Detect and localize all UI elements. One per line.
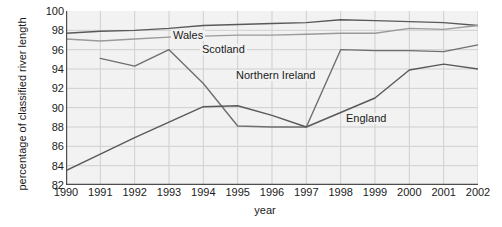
x-tick-1997: 1997	[294, 186, 318, 198]
y-tick-96: 96	[22, 45, 64, 56]
series-canvas	[66, 11, 478, 185]
x-tick-1994: 1994	[191, 186, 215, 198]
x-tick-1993: 1993	[157, 186, 181, 198]
y-tick-86: 86	[22, 141, 64, 152]
x-tick-2002: 2002	[466, 186, 490, 198]
x-tick-1995: 1995	[225, 186, 249, 198]
plot-area	[66, 11, 478, 185]
x-tick-2001: 2001	[431, 186, 455, 198]
y-tick-98: 98	[22, 25, 64, 36]
x-tick-1999: 1999	[363, 186, 387, 198]
x-tick-1998: 1998	[328, 186, 352, 198]
y-tick-92: 92	[22, 83, 64, 94]
x-tick-1991: 1991	[88, 186, 112, 198]
series-label-northern-ireland: Northern Ireland	[234, 70, 318, 81]
y-tick-88: 88	[22, 122, 64, 133]
x-axis-title: year	[0, 204, 502, 216]
x-tick-2000: 2000	[397, 186, 421, 198]
y-tick-100: 100	[22, 6, 64, 17]
x-axis-title-text: year	[254, 204, 275, 216]
y-tick-94: 94	[22, 64, 64, 75]
series-label-england: England	[344, 113, 388, 124]
x-tick-1996: 1996	[260, 186, 284, 198]
x-tick-1992: 1992	[122, 186, 146, 198]
x-axis-tick-labels: 1990199119921993199419951996199719981999…	[0, 186, 502, 202]
x-tick-1990: 1990	[54, 186, 78, 198]
series-label-wales: Wales	[171, 30, 205, 41]
river-quality-line-chart: percentage of classified river length 10…	[0, 0, 502, 227]
series-label-scotland: Scotland	[200, 44, 247, 55]
series-line-northern-ireland	[100, 45, 478, 127]
y-tick-84: 84	[22, 161, 64, 172]
y-tick-90: 90	[22, 103, 64, 114]
